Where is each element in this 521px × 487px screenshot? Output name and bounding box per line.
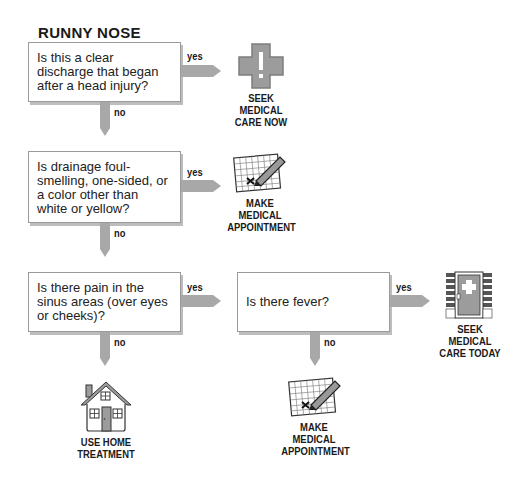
yes-arrow-icon: [390, 293, 430, 309]
no-arrow-icon: [308, 332, 322, 368]
hospital-door-icon: [445, 271, 493, 319]
outcome-make-appointment: MAKE MEDICAL APPOINTMENT: [227, 197, 293, 233]
no-arrow-icon: [98, 102, 112, 138]
outcome-seek-care-today: SEEK MEDICAL CARE TODAY: [437, 323, 503, 359]
no-label: no: [114, 227, 125, 239]
question-box-3: Is there pain in the sinus areas (over e…: [28, 272, 181, 332]
yes-label: yes: [187, 50, 203, 62]
no-arrow-icon: [98, 223, 112, 259]
no-arrow-icon: [98, 332, 112, 368]
no-label: no: [324, 336, 335, 348]
yes-label: yes: [396, 281, 412, 293]
question-text: Is drainage foul-smelling, one-sided, or…: [37, 159, 168, 216]
question-box-2: Is drainage foul-smelling, one-sided, or…: [28, 151, 181, 223]
no-label: no: [114, 106, 125, 118]
outcome-seek-care-now: SEEK MEDICAL CARE NOW: [232, 92, 289, 128]
question-box-4: Is there fever?: [237, 272, 390, 332]
yes-arrow-icon: [181, 178, 221, 194]
outcome-make-appointment-2: MAKE MEDICAL APPOINTMENT: [281, 421, 347, 457]
calendar-pencil-icon: [232, 150, 292, 194]
question-text: Is this a clear discharge that began aft…: [37, 50, 158, 93]
yes-label: yes: [187, 166, 203, 178]
outcome-home-treatment: USE HOME TREATMENT: [73, 436, 139, 460]
question-box-1: Is this a clear discharge that began aft…: [28, 42, 181, 102]
question-text: Is there pain in the sinus areas (over e…: [37, 280, 168, 323]
calendar-pencil-icon: [287, 374, 347, 418]
page-title: RUNNY NOSE: [38, 24, 141, 41]
house-icon: [80, 380, 132, 432]
question-text: Is there fever?: [246, 294, 329, 309]
yes-label: yes: [187, 281, 203, 293]
yes-arrow-icon: [181, 293, 221, 309]
yes-arrow-icon: [181, 63, 221, 79]
no-label: no: [114, 336, 125, 348]
medical-cross-icon: [237, 42, 285, 90]
